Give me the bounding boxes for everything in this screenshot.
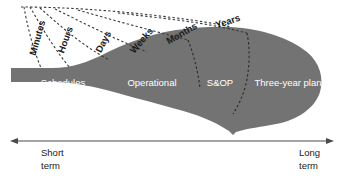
axis-label-long-term-line2: term [299,160,318,171]
funnel-label-operational: Operational [127,77,176,88]
funnel-label-sandop: S&OP [207,77,233,88]
axis-label-short-term-line1: Short [41,147,64,158]
funnel-label-schedules: Schedules [41,77,86,88]
time-unit-label-days: Days [93,29,113,54]
axis-arrowhead-left [10,138,18,144]
time-unit-label-hours: Hours [55,25,75,55]
axis-label-short-term-line2: term [41,160,60,171]
time-unit-label-minutes: Minutes [27,19,47,57]
time-axis-group [10,138,334,144]
funnel-label-three-year-plan: Three-year plan [254,77,321,88]
axis-labels-group: Short term Long term [41,147,320,171]
diagram-canvas: Schedules Operational S&OP Three-year pl… [0,0,343,180]
axis-arrowhead-right [326,138,334,144]
axis-label-long-term-line1: Long [299,147,320,158]
planning-horizon-diagram: Schedules Operational S&OP Three-year pl… [0,0,343,180]
fan-spine-line [21,7,231,27]
